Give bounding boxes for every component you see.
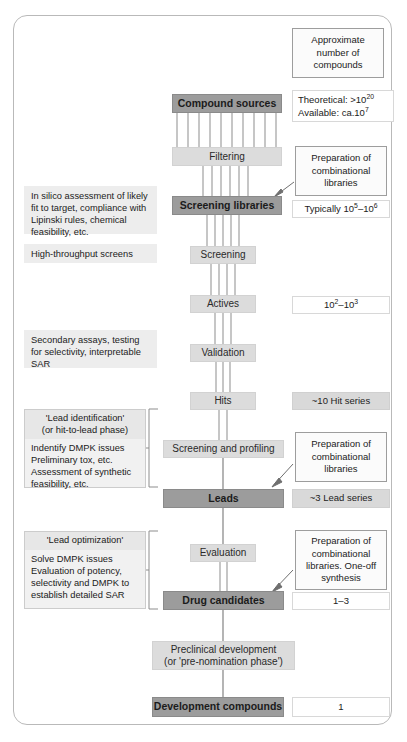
group-body-line-2: Preliminary tox, etc. <box>31 454 139 466</box>
callout-line-1: Preparation of <box>311 438 371 450</box>
stat-actives-count: 102–103 <box>292 296 390 314</box>
group-body: Indentify DMPK issues Preliminary tox, e… <box>25 439 145 495</box>
group-header-line-1: 'Lead identification' <box>29 413 141 425</box>
node-label: Leads <box>208 493 238 505</box>
node-label: Validation <box>201 347 244 358</box>
group-body-line-1: Solve DMPK issues <box>31 553 139 565</box>
group-lead-optimization: 'Lead optimization' Solve DMPK issues Ev… <box>24 531 146 609</box>
theoretical-available-box: Theoretical: >1020 Available: ca.107 <box>292 90 394 122</box>
node-label: Screening and profiling <box>172 443 274 454</box>
group-body-line-1: Indentify DMPK issues <box>31 442 139 454</box>
node-label-line-1: Preclinical development <box>171 644 277 655</box>
callout-line-2: combinational <box>312 451 371 463</box>
node-screening: Screening <box>190 246 256 264</box>
stat-hit-series: ~10 Hit series <box>292 392 390 410</box>
stat-screening-libraries-count: Typically 105–106 <box>292 200 390 218</box>
stat-drug-candidates-count: 1–3 <box>292 592 390 610</box>
note-text: High-throughput screens <box>31 249 133 259</box>
node-label: Evaluation <box>200 547 247 558</box>
group-lead-identification: 'Lead identification' (or hit-to-lead ph… <box>24 409 146 488</box>
node-leads: Leads <box>163 489 284 508</box>
callout-line-3: libraries <box>324 177 357 189</box>
node-label: Hits <box>214 395 231 406</box>
stat-lead-series: ~3 Lead series <box>292 489 390 508</box>
stat-value: 1 <box>338 701 343 714</box>
stat-value: ~10 Hit series <box>312 396 370 407</box>
callout-line-1: Preparation of <box>311 152 371 164</box>
node-label: Drug candidates <box>182 595 264 607</box>
node-screening-libraries: Screening libraries <box>172 196 282 215</box>
callout-line-4: synthesis <box>321 572 361 584</box>
group-body: Solve DMPK issues Evaluation of potency,… <box>25 550 145 606</box>
stat-value: 102–103 <box>324 299 358 312</box>
group-body-line-3: selectivity and DMPK to <box>31 577 139 589</box>
callout-line-3: libraries <box>324 463 357 475</box>
note-high-throughput-screens: High-throughput screens <box>24 244 157 263</box>
group-body-line-4: establish detailed SAR <box>31 589 139 601</box>
group-header-line-1: 'Lead optimization' <box>29 535 141 547</box>
theoretical-value: Theoretical: >1020 <box>298 94 374 107</box>
node-actives: Actives <box>190 295 256 313</box>
node-label-line-2: (or 'pre-nomination phase') <box>164 656 283 667</box>
legend-line-2: number of <box>317 47 360 59</box>
callout-prep-combinational-libraries-3: Preparation of combinational libraries. … <box>295 530 387 590</box>
node-compound-sources: Compound sources <box>172 94 282 113</box>
node-filtering: Filtering <box>172 147 282 166</box>
group-body-line-4: feasibility, etc. <box>31 478 139 490</box>
group-header-line-2: (or hit-to-lead phase) <box>29 425 141 437</box>
node-screening-and-profiling: Screening and profiling <box>163 440 284 458</box>
stat-value: 1–3 <box>333 595 349 608</box>
node-evaluation: Evaluation <box>190 544 256 562</box>
node-validation: Validation <box>190 344 256 362</box>
note-text: Secondary assays, testing for selectivit… <box>31 335 141 369</box>
callout-prep-combinational-libraries-2: Preparation of combinational libraries <box>295 432 387 482</box>
node-label: Screening <box>200 249 245 260</box>
group-body-line-2: Evaluation of potency, <box>31 565 139 577</box>
callout-line-2: combinational <box>312 548 371 560</box>
legend-line-1: Approximate <box>311 34 364 46</box>
group-header: 'Lead identification' (or hit-to-lead ph… <box>25 410 145 439</box>
stat-value: Typically 105–106 <box>304 203 377 216</box>
legend-line-3: compounds <box>313 59 362 71</box>
group-header: 'Lead optimization' <box>25 532 145 550</box>
note-text: In silico assessment of likely fit to ta… <box>31 191 148 237</box>
legend-approximate-number: Approximate number of compounds <box>292 28 384 78</box>
node-development-compounds: Development compounds <box>152 697 284 717</box>
callout-line-3: libraries. One-off <box>306 560 376 572</box>
callout-prep-combinational-libraries-1: Preparation of combinational libraries <box>295 146 387 196</box>
node-label: Filtering <box>209 151 245 162</box>
node-label: Actives <box>207 298 239 309</box>
node-hits: Hits <box>190 392 256 410</box>
node-drug-candidates: Drug candidates <box>163 591 284 610</box>
note-in-silico-assessment: In silico assessment of likely fit to ta… <box>24 186 157 234</box>
callout-line-2: combinational <box>312 165 371 177</box>
available-value: Available: ca.107 <box>298 107 369 120</box>
group-body-line-3: Assessment of synthetic <box>31 466 139 478</box>
callout-line-1: Preparation of <box>311 535 371 547</box>
node-preclinical-development: Preclinical development (or 'pre-nominat… <box>152 641 295 670</box>
stat-value: ~3 Lead series <box>310 493 373 504</box>
node-label: Development compounds <box>154 701 282 713</box>
stat-development-compounds-count: 1 <box>292 697 390 717</box>
node-label: Compound sources <box>178 98 277 110</box>
note-secondary-assays: Secondary assays, testing for selectivit… <box>24 330 157 368</box>
node-label: Screening libraries <box>180 200 275 212</box>
